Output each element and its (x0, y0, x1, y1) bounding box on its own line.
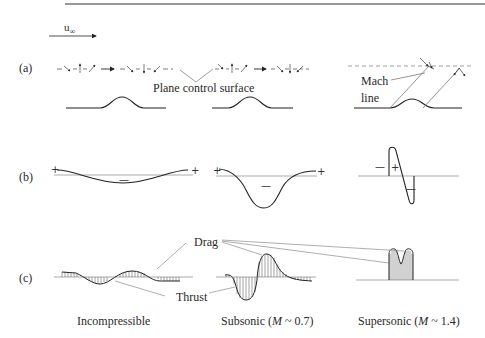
mach-label-line2: line (361, 92, 379, 104)
pressure-supersonic (389, 147, 414, 204)
curve-incompressible (62, 271, 180, 284)
annotation-leaders (115, 240, 404, 296)
thrust-label: Thrust (176, 291, 207, 303)
minus-sign: — (119, 175, 129, 185)
row-b-baselines (54, 175, 459, 176)
caption-suffix: ~ 1.4) (428, 314, 460, 328)
drag-label: Drag (194, 236, 218, 248)
plus-sign: + (51, 165, 59, 175)
plus-sign: + (213, 166, 221, 176)
freestream-subscript: ∞ (70, 27, 76, 36)
mach-symbol: M (272, 314, 282, 328)
freestream-label: u∞ (64, 22, 75, 36)
caption-text: Subsonic ( (221, 314, 272, 328)
caption-suffix: ~ 0.7) (282, 314, 314, 328)
bump-subsonic (212, 97, 293, 108)
caption-supersonic: Supersonic (M ~ 1.4) (358, 315, 460, 327)
mach-symbol: M (418, 314, 428, 328)
minus-sign: — (375, 162, 385, 172)
plus-sign: + (317, 167, 325, 177)
row-a-streamlines (57, 64, 312, 73)
caption-text: Incompressible (77, 314, 150, 328)
minus-sign: — (261, 181, 271, 191)
drag-thrust-subsonic (226, 254, 310, 299)
drag-supersonic (390, 250, 412, 280)
row-label-a: (a) (19, 62, 32, 74)
plus-sign: + (191, 166, 199, 176)
mach-leader (391, 73, 425, 80)
mach-line-front (390, 66, 429, 108)
row-label-c: (c) (19, 272, 32, 284)
caption-subsonic: Subsonic (M ~ 0.7) (221, 315, 314, 327)
curve-supersonic (389, 249, 413, 280)
bump-incompressible (66, 97, 166, 108)
caption-incompressible: Incompressible (77, 315, 150, 327)
row-label-b: (b) (19, 171, 33, 183)
minus-sign: — (406, 184, 416, 194)
plane-control-surface-label: Plane control surface (153, 82, 254, 94)
caption-text: Supersonic ( (358, 314, 418, 328)
mach-label-line1: Mach (361, 75, 388, 87)
plus-sign: + (391, 163, 399, 173)
flow-diagram (0, 0, 485, 338)
